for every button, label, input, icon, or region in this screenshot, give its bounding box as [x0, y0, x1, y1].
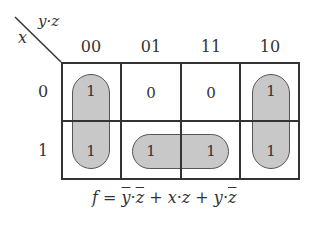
formula-term: x	[168, 188, 177, 207]
cell-0-11: 0	[181, 83, 241, 103]
column-header-00: 00	[61, 37, 121, 56]
corner-diagonal	[0, 0, 70, 70]
simplified-formula: f = y·z + x·z + y·z	[92, 188, 236, 207]
rows-variable-label: x	[18, 28, 27, 47]
formula-plus: +	[149, 188, 162, 207]
cell-1-10: 1	[241, 141, 301, 161]
row-header-1: 1	[36, 141, 50, 160]
formula-equals: =	[103, 188, 116, 207]
formula-term: y	[122, 188, 131, 207]
cell-0-10: 1	[241, 81, 301, 101]
column-header-10: 10	[240, 37, 300, 56]
columns-variable-label: y·z	[38, 12, 59, 30]
column-header-11: 11	[181, 37, 241, 56]
formula-term: y	[214, 188, 223, 207]
cell-1-00: 1	[61, 141, 121, 161]
cell-1-01: 1	[121, 141, 181, 161]
formula-term: z	[182, 188, 190, 207]
cell-1-11: 1	[181, 141, 241, 161]
formula-plus: +	[195, 188, 208, 207]
row-header-0: 0	[36, 82, 50, 101]
formula-lhs: f	[92, 188, 98, 207]
cell-0-01: 0	[121, 83, 181, 103]
column-header-01: 01	[121, 37, 181, 56]
grid-divider	[61, 120, 300, 122]
formula-term: z	[136, 188, 144, 207]
formula-term: z	[228, 188, 236, 207]
cell-0-00: 1	[61, 81, 121, 101]
